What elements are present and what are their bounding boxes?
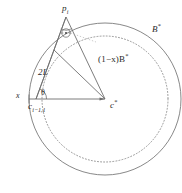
label-inner-ball-scaled: (1−x)B* — [98, 53, 129, 64]
label-center-star: c* — [110, 99, 117, 110]
label-segment-x: x — [16, 92, 20, 100]
label-segment-2l: 2L — [38, 68, 48, 77]
angle-marker-dot-icon — [65, 32, 67, 34]
label-point-pi: pi — [62, 4, 68, 15]
label-outer-ball-b-star: B* — [152, 23, 161, 34]
segment-pi-to-mid — [54, 17, 66, 50]
label-angle-theta: θ — [41, 89, 45, 97]
label-center-previous: ci−1,1 — [28, 102, 46, 113]
geometric-diagram-figure: pi B* (1−x)B* 2L x θ ci−1,1 c* — [0, 0, 182, 193]
